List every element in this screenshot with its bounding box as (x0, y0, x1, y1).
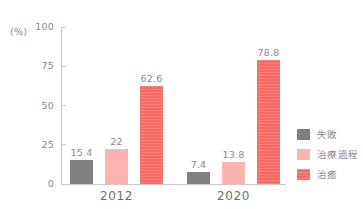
legend-item[interactable]: 失敗 (297, 124, 358, 144)
y-axis-tick-label: 50 (12, 100, 54, 111)
bar[interactable] (257, 60, 280, 184)
bar[interactable] (140, 86, 163, 184)
legend-label: 治療過程 (317, 147, 358, 161)
y-axis-tick-label: 25 (12, 139, 54, 150)
bar[interactable] (105, 149, 128, 184)
legend-swatch-icon (297, 149, 310, 160)
chart-legend: 失敗治療過程治癒 (297, 124, 358, 184)
legend-swatch-icon (297, 129, 310, 140)
y-axis-tick-label: 100 (12, 21, 54, 32)
bar[interactable] (70, 160, 93, 184)
legend-label: 治癒 (317, 167, 338, 181)
x-axis-line (61, 184, 286, 185)
bar[interactable] (222, 162, 245, 184)
bar-value-label: 78.8 (252, 47, 286, 58)
x-axis-category-label: 2020 (194, 189, 274, 203)
legend-item[interactable]: 治療過程 (297, 144, 358, 164)
bar[interactable] (187, 172, 210, 184)
bar-value-label: 7.4 (182, 159, 216, 170)
y-axis-tick-label: 0 (12, 178, 54, 189)
bar-value-label: 13.8 (217, 149, 251, 160)
legend-swatch-icon (297, 169, 310, 180)
legend-item[interactable]: 治癒 (297, 164, 358, 184)
legend-label: 失敗 (317, 127, 338, 141)
x-axis-category-label: 2012 (77, 189, 157, 203)
bar-value-label: 62.6 (135, 73, 169, 84)
y-axis-tick-label: 75 (12, 60, 54, 71)
plot-area: 15.42262.67.413.878.8 (61, 27, 286, 184)
bar-value-label: 22 (100, 136, 134, 147)
bar-chart: (%) 0255075100 15.42262.67.413.878.8 201… (0, 0, 363, 209)
bar-value-label: 15.4 (65, 147, 99, 158)
